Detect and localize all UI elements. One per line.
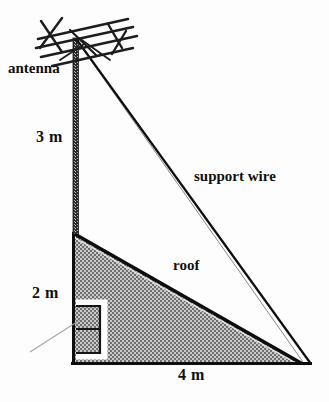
antenna-icon xyxy=(36,18,137,66)
antenna-element-3 xyxy=(41,36,137,57)
antenna-mast xyxy=(73,38,79,234)
label-antenna: antenna xyxy=(8,61,60,76)
antenna-cross-3 xyxy=(108,24,122,48)
label-support-wire: support wire xyxy=(194,169,276,184)
label-wall-height: 2 m xyxy=(32,285,59,301)
label-base-width: 4 m xyxy=(178,367,205,383)
diagram-canvas: antenna 3 m 2 m 4 m roof support wire xyxy=(0,0,329,402)
label-roof: roof xyxy=(173,258,199,273)
label-mast-height: 3 m xyxy=(36,129,63,145)
